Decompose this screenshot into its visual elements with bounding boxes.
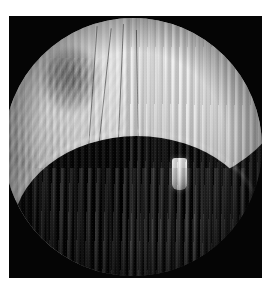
pendant-object-region	[172, 158, 187, 190]
endoscope-black-frame	[9, 16, 262, 278]
circular-field-of-view	[9, 18, 262, 276]
endoscopic-image-page: endoscopy	[0, 0, 270, 290]
